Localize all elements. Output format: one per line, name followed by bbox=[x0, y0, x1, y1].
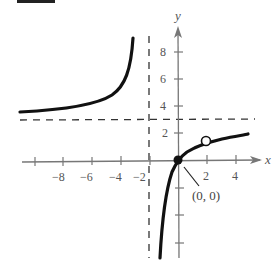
y-tick-2: 2 bbox=[162, 126, 168, 140]
x-tick--8: −8 bbox=[52, 170, 65, 184]
origin-point bbox=[174, 156, 183, 165]
horizontal-asymptote bbox=[20, 119, 255, 120]
origin-label: (0, 0) bbox=[192, 188, 220, 203]
x-tick--6: −6 bbox=[80, 170, 93, 184]
y-axis-label: y bbox=[173, 8, 181, 23]
cropped-label bbox=[17, 0, 55, 3]
y-tick-6: 6 bbox=[160, 72, 166, 86]
x-tick-4: 4 bbox=[232, 169, 238, 183]
annotation-leader bbox=[184, 167, 199, 186]
hole-point bbox=[202, 137, 211, 146]
x-axis-label: x bbox=[264, 152, 271, 167]
function-graph: −8 −6 −4 −2 2 4 x 8 6 4 2 y (0, 0) bbox=[0, 0, 277, 275]
x-tick-2: 2 bbox=[203, 169, 209, 183]
x-tick--2: −2 bbox=[133, 170, 146, 184]
left-branch-curve bbox=[20, 38, 133, 112]
y-tick-8: 8 bbox=[160, 45, 166, 59]
x-tick--4: −4 bbox=[109, 170, 122, 184]
y-tick-4: 4 bbox=[160, 99, 166, 113]
x-axis: −8 −6 −4 −2 2 4 x bbox=[22, 152, 271, 184]
